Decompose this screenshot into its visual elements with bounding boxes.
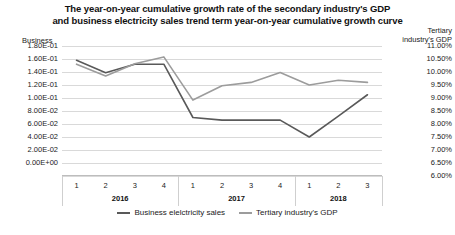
right-tick-label: 8.00% bbox=[431, 120, 452, 128]
x-axis-group-separator bbox=[178, 176, 179, 206]
x-tick-label: 4 bbox=[162, 181, 166, 190]
legend-swatch-icon bbox=[239, 212, 252, 214]
chart-title: The year-on-year cumulative growth rate … bbox=[0, 3, 455, 26]
x-axis-edge bbox=[382, 176, 383, 206]
chart-legend: Business elelctricity salesTertiary indu… bbox=[0, 208, 455, 217]
series-line bbox=[77, 57, 368, 100]
left-tick-label: 1.80E-01 bbox=[28, 42, 58, 50]
left-tick-label: 1.40E-01 bbox=[28, 68, 58, 76]
x-tick-label: 3 bbox=[133, 181, 137, 190]
left-tick-label: 2.00E-02 bbox=[28, 146, 58, 154]
plot-area bbox=[62, 46, 382, 176]
left-tick-label: 1.60E-01 bbox=[28, 55, 58, 63]
left-tick-label: 4.00E-02 bbox=[28, 133, 58, 141]
legend-item[interactable]: Tertiary industry's GDP bbox=[239, 208, 338, 217]
series-line bbox=[77, 60, 368, 137]
x-tick-label: 4 bbox=[278, 181, 282, 190]
right-axis-caption-line-1: Tertiary bbox=[374, 26, 452, 35]
x-tick-label: 3 bbox=[249, 181, 253, 190]
x-axis-year-label: 2016 bbox=[112, 194, 129, 203]
chart-title-line-1: The year-on-year cumulative growth rate … bbox=[0, 3, 455, 15]
chart-title-line-2: and business electricity sales trend ter… bbox=[0, 15, 455, 27]
x-tick-label: 2 bbox=[104, 181, 108, 190]
right-tick-label: 7.50% bbox=[431, 133, 452, 141]
left-tick-label: 8.00E-02 bbox=[28, 107, 58, 115]
legend-swatch-icon bbox=[117, 212, 130, 214]
x-tick-label: 1 bbox=[307, 181, 311, 190]
x-tick-label: 1 bbox=[74, 181, 78, 190]
x-axis-group-separator bbox=[295, 176, 296, 206]
x-axis-year-label: 2017 bbox=[228, 194, 245, 203]
series-layer bbox=[62, 46, 382, 176]
right-tick-label: 6.00% bbox=[431, 172, 452, 180]
x-axis-edge bbox=[62, 176, 63, 206]
left-tick-label: 0.00E+00 bbox=[26, 159, 58, 167]
legend-item[interactable]: Business elelctricity sales bbox=[117, 208, 225, 217]
x-axis-year-label: 2018 bbox=[330, 194, 347, 203]
left-tick-label: 1.20E-01 bbox=[28, 81, 58, 89]
x-tick-label: 2 bbox=[220, 181, 224, 190]
right-tick-label: 6.50% bbox=[431, 159, 452, 167]
right-tick-label: 8.50% bbox=[431, 107, 452, 115]
x-tick-label: 2 bbox=[336, 181, 340, 190]
legend-label: Business elelctricity sales bbox=[134, 208, 225, 217]
right-tick-label: 10.50% bbox=[427, 55, 452, 63]
right-tick-label: 9.00% bbox=[431, 94, 452, 102]
right-tick-label: 7.00% bbox=[431, 146, 452, 154]
x-tick-label: 3 bbox=[365, 181, 369, 190]
left-tick-label: 6.00E-02 bbox=[28, 120, 58, 128]
right-tick-label: 11.00% bbox=[427, 42, 452, 50]
right-tick-label: 9.50% bbox=[431, 81, 452, 89]
chart-container: The year-on-year cumulative growth rate … bbox=[0, 0, 455, 235]
legend-label: Tertiary industry's GDP bbox=[256, 208, 338, 217]
right-tick-label: 10.00% bbox=[427, 68, 452, 76]
x-axis: 12341234123201620172018 bbox=[62, 176, 382, 208]
left-tick-label: 1.00E-01 bbox=[28, 94, 58, 102]
x-tick-label: 1 bbox=[191, 181, 195, 190]
